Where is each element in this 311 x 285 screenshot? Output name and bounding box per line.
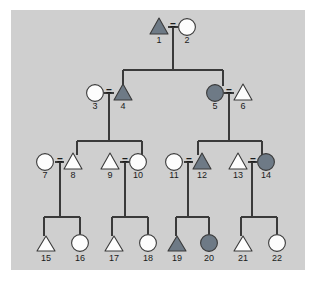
mating-symbol-5-6: = bbox=[224, 87, 234, 97]
individual-symbols bbox=[37, 18, 286, 251]
individual-11-label: 11 bbox=[164, 170, 184, 180]
individual-9-symbol[interactable] bbox=[101, 153, 119, 169]
individual-10-symbol[interactable] bbox=[130, 154, 147, 171]
mating-symbol-3-4: = bbox=[104, 87, 114, 97]
individual-21-label: 21 bbox=[233, 253, 253, 263]
individual-22-label: 22 bbox=[267, 253, 287, 263]
individual-13-label: 13 bbox=[228, 170, 248, 180]
mating-symbol-11-12: = bbox=[184, 156, 194, 166]
individual-6-label: 6 bbox=[233, 101, 253, 111]
individual-9-label: 9 bbox=[100, 170, 120, 180]
individual-19-symbol[interactable] bbox=[168, 236, 186, 251]
individual-2-label: 2 bbox=[177, 35, 197, 45]
individual-18-symbol[interactable] bbox=[140, 235, 157, 252]
individual-19-label: 19 bbox=[167, 253, 187, 263]
individual-16-label: 16 bbox=[70, 253, 90, 263]
individual-17-symbol[interactable] bbox=[105, 236, 123, 251]
individual-16-symbol[interactable] bbox=[72, 235, 89, 252]
individual-2-symbol[interactable] bbox=[179, 19, 196, 36]
mating-symbol-1-2: = bbox=[168, 21, 178, 31]
individual-15-label: 15 bbox=[36, 253, 56, 263]
mating-symbol-9-10: = bbox=[120, 156, 130, 166]
individual-10-label: 10 bbox=[128, 170, 148, 180]
individual-4-symbol[interactable] bbox=[114, 84, 132, 100]
individual-3-symbol[interactable] bbox=[87, 85, 104, 102]
individual-14-symbol[interactable] bbox=[258, 154, 275, 171]
individual-8-symbol[interactable] bbox=[64, 153, 82, 169]
individual-7-label: 7 bbox=[35, 170, 55, 180]
individual-1-label: 1 bbox=[149, 35, 169, 45]
individual-3-label: 3 bbox=[85, 101, 105, 111]
mating-symbol-13-14: = bbox=[248, 156, 258, 166]
individual-8-label: 8 bbox=[63, 170, 83, 180]
individual-5-label: 5 bbox=[205, 101, 225, 111]
individual-20-symbol[interactable] bbox=[201, 235, 218, 252]
individual-12-symbol[interactable] bbox=[193, 153, 211, 169]
individual-13-symbol[interactable] bbox=[229, 153, 247, 169]
connector-lines bbox=[44, 27, 277, 236]
individual-1-symbol[interactable] bbox=[150, 18, 168, 34]
individual-6-symbol[interactable] bbox=[234, 84, 252, 100]
individual-17-label: 17 bbox=[104, 253, 124, 263]
individual-7-symbol[interactable] bbox=[37, 154, 54, 171]
individual-21-symbol[interactable] bbox=[234, 236, 252, 251]
individual-20-label: 20 bbox=[199, 253, 219, 263]
mating-symbol-7-8: = bbox=[55, 156, 65, 166]
individual-11-symbol[interactable] bbox=[166, 154, 183, 171]
individual-14-label: 14 bbox=[256, 170, 276, 180]
individual-12-label: 12 bbox=[192, 170, 212, 180]
individual-4-label: 4 bbox=[113, 101, 133, 111]
individual-15-symbol[interactable] bbox=[37, 236, 55, 251]
individual-18-label: 18 bbox=[138, 253, 158, 263]
individual-22-symbol[interactable] bbox=[269, 235, 286, 252]
pedigree-chart: = = = = = = = 1 2 3 4 5 6 7 8 9 10 11 12… bbox=[0, 0, 311, 285]
individual-5-symbol[interactable] bbox=[207, 85, 224, 102]
